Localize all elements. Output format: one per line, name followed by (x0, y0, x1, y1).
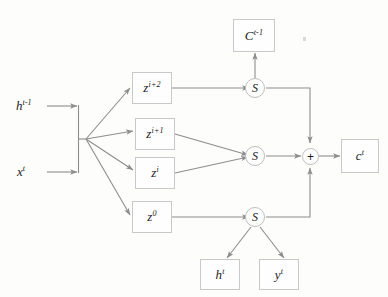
wire-fan-to-z-i (86, 139, 133, 170)
s-node-top[interactable]: S (245, 78, 265, 98)
box-z-i-plus-2[interactable]: zi+2 (132, 72, 172, 104)
box-z-i-plus-1[interactable]: zi+1 (135, 118, 175, 150)
wire-s-bottom-to-sum (266, 168, 310, 217)
box-hidden-state-out[interactable]: ht (200, 259, 240, 290)
input-label-x-sup: t (23, 164, 25, 173)
box-cell-state-prev-base: C (245, 28, 254, 43)
wire-z-i-to-s-middle (175, 157, 248, 173)
box-output-y-sup: t (281, 267, 283, 276)
wire-fan-to-z-i-plus-2 (86, 88, 130, 139)
box-z-i-plus-2-sup: i+2 (149, 80, 161, 89)
s-node-top-label: S (252, 81, 258, 96)
sum-node[interactable]: + (302, 148, 319, 165)
box-hidden-state-out-sup: t (222, 267, 224, 276)
wire-fan-to-z-zero (86, 139, 130, 215)
diagram-canvas: ht-1 xt zi+2 zi+1 zi z0 S S S + Ct-1 ct … (0, 0, 388, 297)
box-z-zero-sup: 0 (153, 209, 157, 218)
box-cell-state-out-sup: t (362, 148, 364, 157)
box-cell-state-out-label: ct (356, 149, 364, 162)
box-z-i-plus-2-label: zi+2 (143, 81, 161, 94)
wire-s-top-to-sum (266, 88, 310, 143)
sum-node-label: + (307, 150, 314, 164)
connector-layer (0, 0, 388, 297)
wire-s-bottom-to-h (227, 227, 251, 258)
wire-fan-to-z-i-plus-1 (86, 131, 133, 139)
box-z-zero[interactable]: z0 (132, 201, 172, 233)
scan-artifact-speck (303, 37, 306, 41)
s-node-middle[interactable]: S (245, 146, 265, 166)
box-z-i-plus-1-label: zi+1 (146, 127, 164, 140)
s-node-middle-label: S (252, 149, 258, 164)
box-z-zero-label: z0 (147, 210, 156, 223)
box-hidden-state-out-label: ht (215, 268, 224, 281)
input-label-h-prev: ht-1 (16, 98, 31, 114)
input-label-x: xt (17, 164, 25, 180)
input-label-h-prev-sup: t-1 (23, 98, 32, 107)
wire-z-i-plus-1-to-s-middle (175, 134, 248, 155)
box-z-i-sup: i (156, 165, 158, 174)
s-node-bottom-label: S (252, 210, 258, 225)
box-z-i[interactable]: zi (135, 157, 175, 189)
box-output-y[interactable]: yt (259, 259, 299, 290)
box-z-i-plus-1-sup: i+1 (152, 126, 164, 135)
box-cell-state-prev-label: Ct-1 (245, 29, 263, 42)
box-cell-state-out[interactable]: ct (341, 139, 379, 173)
box-z-i-label: zi (151, 166, 159, 179)
box-cell-state-prev-sup: t-1 (254, 28, 264, 37)
wire-s-bottom-to-y (260, 227, 284, 258)
s-node-bottom[interactable]: S (245, 207, 265, 227)
box-cell-state-prev[interactable]: Ct-1 (233, 19, 275, 52)
box-output-y-label: yt (275, 268, 283, 281)
